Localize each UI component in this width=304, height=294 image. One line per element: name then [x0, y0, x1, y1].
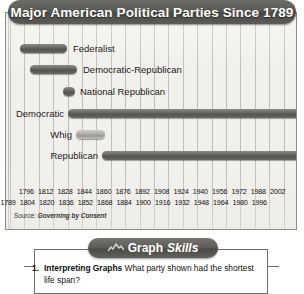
chart-title-banner: Major American Political Parties Since 1…	[8, 0, 296, 24]
question-term: Interpreting Graphs	[44, 263, 122, 273]
chart-row-democratic-republican: Democratic-Republican	[6, 61, 296, 78]
source-title: Governing by Consent	[38, 212, 107, 219]
x-axis-tick-1860: 1860	[94, 187, 113, 196]
source-prefix: Source:	[14, 212, 36, 219]
graph-skills-word-graph: Graph	[128, 241, 163, 255]
x-axis-tick-1964: 1964	[211, 198, 230, 207]
bar-label-democratic-republican: Democratic-Republican	[83, 62, 182, 77]
x-axis-tick-1932: 1932	[172, 198, 191, 207]
x-axis-tick-1804: 1804	[18, 198, 37, 207]
x-axis-tick-1940: 1940	[191, 187, 210, 196]
x-axis-tick-1836: 1836	[56, 198, 75, 207]
x-axis-tick-1948: 1948	[192, 198, 211, 207]
bar-national-republican	[63, 87, 75, 96]
x-axis-tick-1852: 1852	[76, 198, 95, 207]
bar-label-republican: Republican	[8, 148, 98, 163]
chart-plot-area: Federalist Democratic-Republican Nationa…	[6, 13, 296, 229]
x-axis-tick-1996: 1996	[250, 198, 269, 207]
chart-panel: Federalist Democratic-Republican Nationa…	[5, 12, 297, 230]
x-axis-tick-1972: 1972	[229, 187, 248, 196]
page-title: Major American Political Parties Since 1…	[11, 5, 294, 20]
graph-skills-banner: Graph Skills	[88, 238, 218, 258]
chart-row-democratic: Democratic	[6, 105, 296, 122]
x-axis-tick-1828: 1828	[55, 187, 74, 196]
bar-federalist	[20, 44, 67, 53]
wave-chart-icon	[108, 239, 124, 257]
bar-democratic	[68, 109, 296, 118]
x-axis-tick-1884: 1884	[114, 198, 133, 207]
x-axis-tick-1812: 1812	[36, 187, 55, 196]
x-axis-tick-1956: 1956	[210, 187, 229, 196]
x-axis-tick-1924: 1924	[171, 187, 190, 196]
x-axis-tick-1980: 1980	[230, 198, 249, 207]
x-axis-tick-1868: 1868	[95, 198, 114, 207]
callout-stub-right	[267, 266, 279, 267]
bar-democratic-republican	[30, 65, 77, 74]
x-axis-tick-1988: 1988	[249, 187, 268, 196]
bar-label-federalist: Federalist	[73, 41, 115, 56]
graph-skills-word-skills: Skills	[167, 241, 198, 255]
bar-label-whig: Whig	[8, 127, 72, 142]
x-axis-tick-1892: 1892	[133, 187, 152, 196]
x-axis-ticks-lower: 1789180418201836185218681884190019161932…	[6, 198, 296, 209]
x-axis-ticks-upper: 1796181218281844186018761892190819241940…	[6, 187, 296, 198]
question-number: 1.	[32, 263, 39, 275]
chart-row-national-republican: National Republican	[6, 83, 296, 100]
x-axis-tick-2002: 2002	[268, 187, 287, 196]
x-axis-tick-1796: 1796	[17, 187, 36, 196]
x-axis-tick-1908: 1908	[152, 187, 171, 196]
bar-whig	[76, 130, 105, 139]
x-axis-tick-1900: 1900	[134, 198, 153, 207]
chart-source: Source: Governing by Consent	[14, 212, 106, 219]
bar-republican	[102, 151, 296, 160]
bar-label-national-republican: National Republican	[80, 84, 165, 99]
bar-label-democratic: Democratic	[8, 106, 64, 121]
chart-row-federalist: Federalist	[6, 40, 296, 57]
x-axis-tick-1789: 1789	[0, 198, 18, 207]
x-axis-tick-1820: 1820	[37, 198, 56, 207]
chart-row-republican: Republican	[6, 147, 296, 164]
question-item: 1. Interpreting Graphs What party shown …	[44, 263, 266, 286]
x-axis-tick-1844: 1844	[75, 187, 94, 196]
x-axis-tick-1876: 1876	[113, 187, 132, 196]
x-axis-tick-1916: 1916	[153, 198, 172, 207]
chart-row-whig: Whig	[6, 126, 296, 143]
